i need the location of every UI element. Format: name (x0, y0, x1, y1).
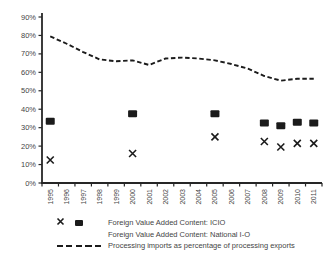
y-tick-label: 20% (21, 142, 36, 151)
x-tick-label: 2002 (162, 189, 169, 205)
y-axis: 0%10%20%30%40%50%60%70%80%90% (21, 13, 42, 188)
national-io-marker (261, 138, 268, 145)
x-tick-label: 2005 (211, 189, 218, 205)
legend-label-icio: Foreign Value Added Content: ICIO (108, 218, 225, 227)
square-marker-icon (75, 220, 83, 227)
national-io-marker (310, 140, 317, 147)
x-tick-label: 2004 (195, 189, 202, 205)
axes (41, 13, 322, 183)
x-tick-label: 1998 (96, 189, 103, 205)
national-io-marker (294, 140, 301, 147)
icio-marker (260, 120, 269, 127)
x-tick-label: 2011 (310, 189, 317, 204)
x-tick-label: 2010 (294, 189, 301, 205)
y-tick-label: 60% (21, 68, 36, 77)
legend-item-processing: Processing imports as percentage of proc… (56, 240, 295, 252)
x-tick-label: 2006 (228, 189, 235, 205)
x-tick-label: 2003 (179, 189, 186, 205)
x-axis: 1995199619971998199920002001200220032004… (42, 183, 322, 205)
processing-line (50, 36, 314, 80)
legend-label-national-io: Foreign Value Added Content: National I-… (108, 230, 250, 239)
x-tick-label: 1995 (47, 189, 54, 205)
dashed-line-icon (57, 245, 101, 247)
national-io-marker (277, 144, 284, 151)
y-tick-label: 10% (21, 160, 36, 169)
x-marker-icon (56, 217, 65, 226)
x-tick-label: 2009 (277, 189, 284, 205)
legend-item-national-io: Foreign Value Added Content: National I-… (56, 229, 295, 241)
plot-area: 0%10%20%30%40%50%60%70%80%90%19951996199… (0, 0, 334, 215)
icio-marker (293, 119, 302, 126)
x-tick-label: 1997 (80, 189, 87, 205)
chart-figure: 0%10%20%30%40%50%60%70%80%90%19951996199… (0, 0, 334, 265)
series-1 (47, 133, 318, 163)
x-tick-label: 1999 (113, 189, 120, 205)
legend-label-processing: Processing imports as percentage of proc… (108, 241, 295, 250)
legend: Foreign Value Added Content: ICIO Foreig… (56, 217, 295, 252)
y-tick-label: 30% (21, 123, 36, 132)
y-tick-label: 50% (21, 86, 36, 95)
national-io-marker (47, 156, 54, 163)
icio-marker (128, 110, 137, 117)
y-tick-label: 90% (21, 13, 36, 22)
x-tick-label: 2008 (261, 189, 268, 205)
x-tick-label: 2001 (146, 189, 153, 205)
series-0 (46, 110, 319, 129)
series-2 (50, 36, 314, 80)
icio-marker (309, 120, 318, 127)
x-tick-label: 2000 (129, 189, 136, 205)
icio-marker (210, 110, 219, 117)
icio-marker (276, 122, 285, 129)
y-tick-label: 40% (21, 105, 36, 114)
national-io-marker (211, 133, 218, 140)
x-tick-label: 1996 (63, 189, 70, 205)
x-tick-label: 2007 (244, 189, 251, 205)
y-tick-label: 0% (25, 179, 36, 188)
y-tick-label: 70% (21, 49, 36, 58)
legend-item-icio: Foreign Value Added Content: ICIO (56, 217, 295, 229)
national-io-marker (129, 150, 136, 157)
icio-marker (46, 118, 55, 125)
y-tick-label: 80% (21, 31, 36, 40)
